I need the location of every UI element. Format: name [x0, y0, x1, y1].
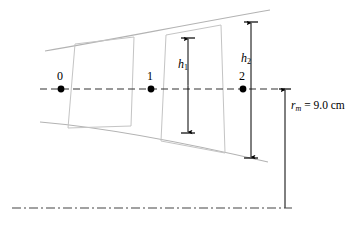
station-label-0: 0 [57, 70, 63, 82]
mean-radius-variable: rm [291, 99, 301, 111]
station-marker-2 [240, 86, 247, 93]
station-label-1: 1 [147, 70, 153, 82]
mean-radius-label: rm = 9.0 cm [291, 100, 345, 112]
outer-casing-curve [45, 10, 270, 51]
blade-row-2 [161, 25, 225, 153]
figure-canvas [0, 0, 362, 235]
mean-radius-subscript: m [295, 104, 301, 113]
blade-height-2-label: h2 [241, 52, 251, 64]
h2-subscript: 2 [247, 57, 251, 66]
h1-subscript: 1 [184, 63, 188, 72]
meridional-flowpath-figure: 0 1 2 h1 h2 rm = 9.0 cm [0, 0, 362, 235]
blade-row-1 [68, 37, 134, 128]
station-label-2: 2 [239, 70, 245, 82]
mean-radius-value: 9.0 [314, 99, 328, 111]
blade-height-1-label: h1 [178, 58, 188, 70]
mean-radius-unit: cm [331, 99, 345, 111]
station-marker-0 [58, 86, 65, 93]
dimension-mean-radius [279, 89, 291, 208]
mean-radius-equals: = [301, 99, 313, 111]
dimension-h1 [181, 38, 195, 133]
station-marker-1 [148, 86, 155, 93]
